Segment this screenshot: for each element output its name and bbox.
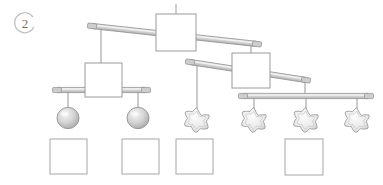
sphere-1-body xyxy=(57,107,79,128)
bottom-beam[interactable] xyxy=(239,93,374,98)
left-beam-right-cap xyxy=(142,87,151,92)
sphere-2[interactable] xyxy=(127,107,149,128)
answer-box-4[interactable] xyxy=(285,139,323,175)
bottom-beam-left-cap xyxy=(239,93,248,98)
answer-box-1-outline[interactable] xyxy=(50,139,87,174)
top-beam-left-cap xyxy=(87,23,97,29)
worksheet-canvas: 2 xyxy=(0,0,383,185)
left-beam-left-cap xyxy=(53,87,62,92)
middle-beam-right-cap xyxy=(301,77,311,84)
sphere-2-highlight xyxy=(131,111,138,116)
answer-box-1[interactable] xyxy=(50,139,87,174)
star-4-body xyxy=(345,108,369,133)
star-1-body xyxy=(185,108,209,133)
star-4[interactable] xyxy=(345,108,369,133)
bottom-beam-right-cap xyxy=(365,93,374,98)
diagram-root xyxy=(50,4,374,175)
answer-box-3-outline[interactable] xyxy=(176,139,213,174)
answer-box-2-outline[interactable] xyxy=(122,139,159,174)
answer-box-3[interactable] xyxy=(176,139,213,174)
star-1[interactable] xyxy=(185,108,209,133)
bottom-beam-bar-body xyxy=(243,93,369,98)
sphere-1[interactable] xyxy=(57,107,79,128)
mobile-diagram xyxy=(0,0,383,185)
star-3[interactable] xyxy=(294,108,318,133)
top-fulcrum-square[interactable] xyxy=(156,14,196,51)
answer-box-4-outline[interactable] xyxy=(285,139,323,175)
star-2[interactable] xyxy=(242,108,266,133)
star-3-body xyxy=(294,108,318,133)
middle-beam-left-cap xyxy=(185,59,195,66)
top-beam-right-cap xyxy=(252,41,262,47)
answer-box-2[interactable] xyxy=(122,139,159,174)
left-fulcrum-square[interactable] xyxy=(85,63,122,97)
right-fulcrum-square[interactable] xyxy=(232,53,270,88)
sphere-1-highlight xyxy=(61,111,68,116)
sphere-2-body xyxy=(127,107,149,128)
bottom-beam-bar xyxy=(243,93,369,98)
star-2-body xyxy=(242,108,266,133)
question-number-text: 2 xyxy=(22,16,29,32)
